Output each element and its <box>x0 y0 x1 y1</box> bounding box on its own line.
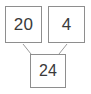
number-bond-diagram: 20 4 24 <box>0 0 91 94</box>
addend-left-value: 20 <box>14 16 33 33</box>
addend-left-box[interactable]: 20 <box>5 6 42 43</box>
addend-right-box[interactable]: 4 <box>48 6 85 43</box>
addend-right-value: 4 <box>62 16 72 33</box>
sum-value: 24 <box>39 63 57 79</box>
connector-left-line <box>23 44 31 54</box>
connector-right-line <box>59 44 67 54</box>
sum-box[interactable]: 24 <box>30 54 66 88</box>
